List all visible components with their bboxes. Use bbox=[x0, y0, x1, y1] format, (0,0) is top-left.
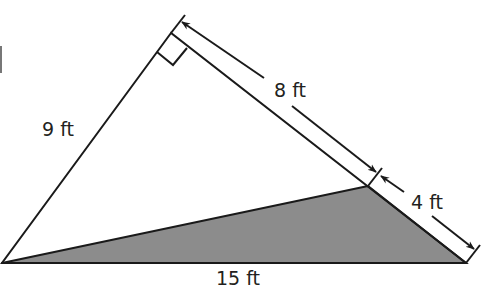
label-left-side: 9 ft bbox=[42, 118, 74, 140]
label-lower-right-segment: 4 ft bbox=[411, 191, 443, 213]
right-angle-marker bbox=[157, 48, 187, 65]
label-upper-right-segment: 8 ft bbox=[274, 79, 306, 101]
dimension-line-4ft-upper bbox=[381, 176, 404, 192]
label-base: 15 ft bbox=[216, 267, 260, 289]
triangle-diagram: 9 ft 8 ft 4 ft 15 ft bbox=[0, 0, 492, 290]
shaded-triangle-region bbox=[2, 186, 466, 263]
dimension-line-8ft-lower bbox=[292, 106, 376, 172]
extension-tick-top bbox=[171, 15, 185, 33]
